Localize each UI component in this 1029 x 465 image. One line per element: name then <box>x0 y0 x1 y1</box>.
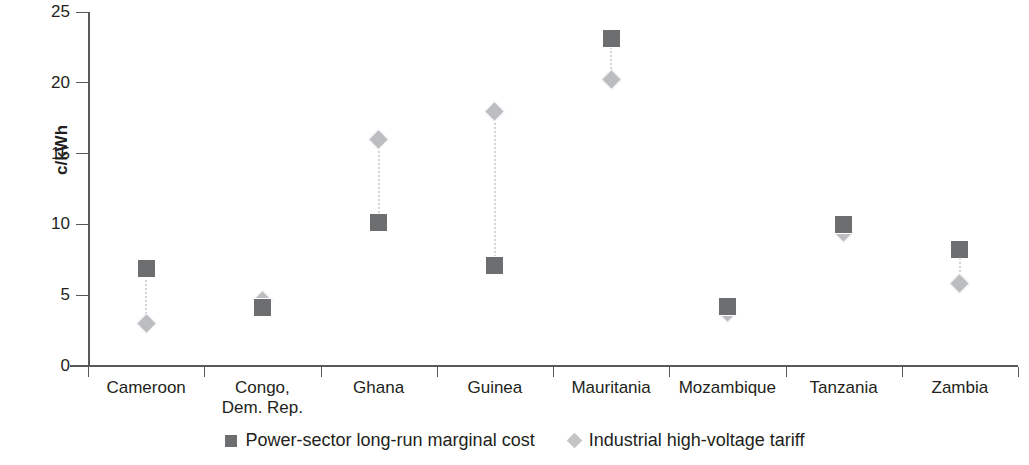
x-axis-category-label-line: Mozambique <box>661 378 793 398</box>
value-connector-line <box>378 139 380 223</box>
y-axis-tick-label: 0 <box>16 357 70 374</box>
data-point-tariff <box>136 313 157 334</box>
x-axis-category-label: Mauritania <box>545 378 677 398</box>
y-axis-tick <box>76 366 88 367</box>
x-axis-category-label-line: Guinea <box>429 378 561 398</box>
x-axis-category-label: Ghana <box>313 378 445 398</box>
x-axis-category-label-line: Tanzania <box>778 378 910 398</box>
x-axis-category-label-line: Congo, <box>196 378 328 398</box>
x-axis-category-label-line: Mauritania <box>545 378 677 398</box>
diamond-marker-icon <box>566 433 582 449</box>
x-axis-tick <box>1018 367 1019 377</box>
legend-item-tariff: Industrial high-voltage tariff <box>569 430 805 451</box>
x-axis-category-label: Guinea <box>429 378 561 398</box>
y-axis-tick <box>76 12 88 13</box>
x-axis-category-label-line: Zambia <box>894 378 1026 398</box>
y-axis-tick-label: 20 <box>16 74 70 91</box>
legend-label-tariff: Industrial high-voltage tariff <box>589 430 805 451</box>
x-axis-tick <box>204 367 205 377</box>
data-point-tariff <box>949 273 970 294</box>
data-point-cost <box>950 240 969 259</box>
y-axis-tick-label: 15 <box>16 145 70 162</box>
legend-item-cost: Power-sector long-run marginal cost <box>225 430 535 451</box>
x-axis-category-label-line: Ghana <box>313 378 445 398</box>
x-axis-category-label-line: Cameroon <box>80 378 212 398</box>
x-axis-tick <box>437 367 438 377</box>
x-axis-tick <box>786 367 787 377</box>
y-axis-tick-label: 10 <box>16 215 70 232</box>
data-point-cost <box>718 297 737 316</box>
y-axis-tick-label: 5 <box>16 286 70 303</box>
data-point-cost <box>369 213 388 232</box>
data-point-cost <box>602 29 621 48</box>
data-point-cost <box>137 259 156 278</box>
plot-area <box>88 12 1018 366</box>
y-axis-tick <box>76 224 88 225</box>
x-axis-tick <box>553 367 554 377</box>
data-point-tariff <box>368 129 389 150</box>
data-point-cost <box>834 215 853 234</box>
x-axis-category-label: Congo,Dem. Rep. <box>196 378 328 417</box>
x-axis-category-label: Cameroon <box>80 378 212 398</box>
y-axis-tick <box>76 295 88 296</box>
x-axis-tick <box>321 367 322 377</box>
x-axis-category-label: Tanzania <box>778 378 910 398</box>
scatter-chart: c/kWh 0510152025 CameroonCongo,Dem. Rep.… <box>0 0 1029 465</box>
value-connector-line <box>494 111 496 265</box>
data-point-cost <box>253 298 272 317</box>
x-axis-tick <box>902 367 903 377</box>
data-point-cost <box>485 256 504 275</box>
data-point-tariff <box>601 69 622 90</box>
data-point-tariff <box>484 101 505 122</box>
x-axis-tick <box>88 367 89 377</box>
x-axis-tick <box>669 367 670 377</box>
y-axis-tick <box>76 153 88 154</box>
y-axis-tick-label: 25 <box>16 3 70 20</box>
x-axis-category-label: Mozambique <box>661 378 793 398</box>
chart-legend: Power-sector long-run marginal cost Indu… <box>0 430 1029 451</box>
square-marker-icon <box>225 435 237 447</box>
x-axis-category-label: Zambia <box>894 378 1026 398</box>
legend-label-cost: Power-sector long-run marginal cost <box>246 430 535 451</box>
x-axis-category-label-line: Dem. Rep. <box>196 398 328 418</box>
y-axis-tick <box>76 82 88 83</box>
